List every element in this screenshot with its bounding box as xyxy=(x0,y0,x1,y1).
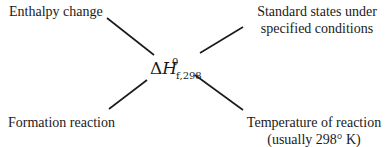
enthalpy-symbol: ΔHf,2980 xyxy=(150,58,202,78)
line-enthalpy-change xyxy=(107,18,154,55)
label-temperature: Temperature of reaction (usually 298° K) xyxy=(238,114,390,147)
label-temperature-line2: (usually 298° K) xyxy=(238,131,390,147)
label-enthalpy-change: Enthalpy change xyxy=(9,3,103,20)
line-standard-states xyxy=(200,27,243,53)
label-formation-reaction: Formation reaction xyxy=(8,114,115,131)
subscript-f298: f,298 xyxy=(176,70,202,81)
delta-symbol: Δ xyxy=(150,58,162,78)
label-temperature-line1: Temperature of reaction xyxy=(238,114,390,131)
label-standard-states-line2: specified conditions xyxy=(244,20,390,37)
line-temperature xyxy=(195,75,243,110)
label-standard-states-line1: Standard states under xyxy=(244,3,390,20)
line-formation-reaction xyxy=(109,80,147,109)
superscript-zero: 0 xyxy=(172,56,190,67)
label-standard-states: Standard states under specified conditio… xyxy=(244,3,390,37)
